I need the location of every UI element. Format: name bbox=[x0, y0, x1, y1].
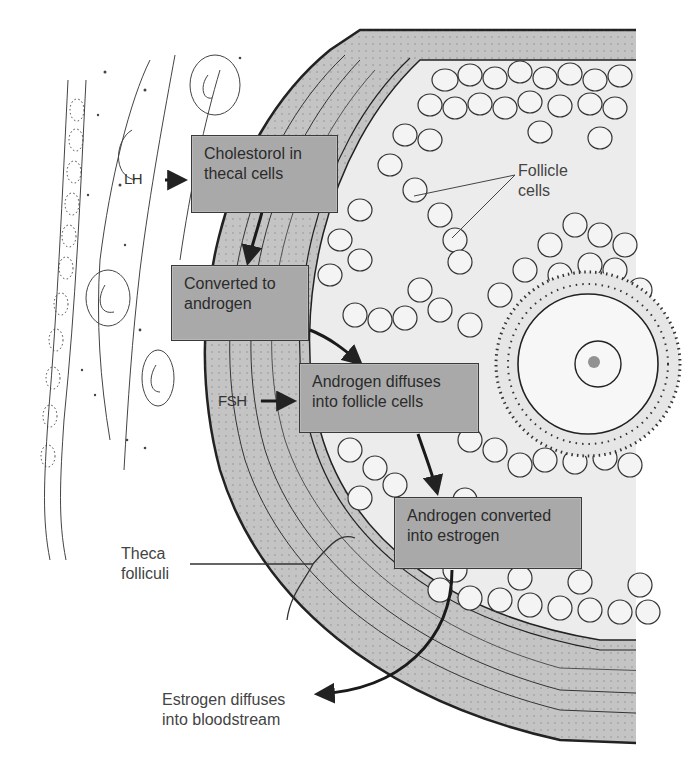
step-1-line-1: Cholestorol in bbox=[204, 144, 327, 164]
theca-folliculi-label: Theca folliculi bbox=[121, 544, 169, 584]
step-4-line-2: into estrogen bbox=[407, 526, 571, 546]
step-2-line-2: androgen bbox=[184, 294, 298, 314]
step-4-line-1: Androgen converted bbox=[407, 506, 571, 526]
lh-label: LH bbox=[124, 170, 142, 187]
estrogen-label-line-2: into bloodstream bbox=[162, 710, 285, 730]
follicle-cells-label: Follicle cells bbox=[518, 161, 568, 201]
oocyte bbox=[496, 272, 680, 456]
estrogen-label-line-1: Estrogen diffuses bbox=[162, 690, 285, 710]
step-box-diffuses: Androgen diffuses into follicle cells bbox=[299, 363, 479, 433]
step-box-cholesterol: Cholestorol in thecal cells bbox=[191, 135, 338, 213]
estrogen-bloodstream-label: Estrogen diffuses into bloodstream bbox=[162, 690, 285, 730]
follicle-cells-label-line-1: Follicle bbox=[518, 161, 568, 181]
step-3-line-2: into follicle cells bbox=[312, 392, 468, 412]
step-box-estrogen: Androgen converted into estrogen bbox=[394, 497, 582, 569]
follicle-cells-label-line-2: cells bbox=[518, 181, 568, 201]
fsh-label: FSH bbox=[218, 392, 247, 409]
step-1-line-2: thecal cells bbox=[204, 164, 327, 184]
step-box-androgen: Converted to androgen bbox=[171, 265, 309, 341]
step-2-line-1: Converted to bbox=[184, 274, 298, 294]
theca-label-line-1: Theca bbox=[121, 544, 169, 564]
step-3-line-1: Androgen diffuses bbox=[312, 372, 468, 392]
theca-label-line-2: folliculi bbox=[121, 564, 169, 584]
